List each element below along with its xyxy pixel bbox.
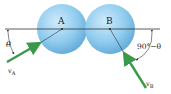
label-ninety-minus-theta: 90°−θ — [137, 42, 162, 51]
impact-diagram: A B θ 90°−θ vA vB — [0, 0, 171, 94]
velocity-a-arrow — [7, 43, 40, 62]
label-a: A — [57, 16, 65, 26]
label-b: B — [106, 16, 113, 26]
label-vb: vB — [145, 80, 154, 89]
label-theta: θ — [6, 40, 11, 49]
label-va: vA — [7, 67, 16, 76]
velocity-b-arrow — [124, 53, 146, 88]
